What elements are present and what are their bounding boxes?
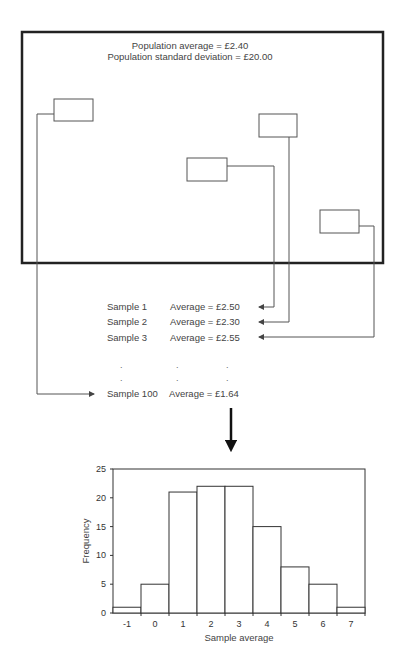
sample-box-100: [54, 99, 93, 121]
y-tick-label: 25: [96, 464, 106, 474]
x-tick-label: -1: [123, 619, 131, 629]
histogram: -1012345670510152025Sample averageFreque…: [80, 464, 365, 643]
x-tick-label: 4: [264, 619, 269, 629]
x-tick-label: 7: [348, 619, 353, 629]
y-tick-label: 10: [96, 550, 106, 560]
sample-box-1: [187, 158, 227, 181]
histogram-bar: [197, 486, 225, 613]
sample-box-2: [259, 114, 297, 137]
histogram-bar: [169, 492, 197, 613]
histogram-bar: [113, 607, 141, 613]
ellipsis-dot: .: [120, 373, 123, 383]
sample-box-3: [320, 210, 359, 233]
sample-2-label: Sample 2: [107, 316, 147, 327]
histogram-bar: [337, 607, 365, 613]
sample-1-label: Sample 1: [107, 301, 147, 312]
population-average: Population average = £2.40: [60, 40, 320, 51]
ellipsis-dot: .: [176, 373, 179, 383]
ellipsis-dot: .: [226, 373, 229, 383]
sample-100-average: Average = £1.64: [169, 388, 239, 399]
histogram-bar: [281, 567, 309, 613]
ellipsis-dot: .: [120, 360, 123, 370]
ellipsis-dot: .: [226, 360, 229, 370]
sample-2-average: Average = £2.30: [170, 316, 240, 327]
histogram-bar: [309, 584, 337, 613]
x-tick-label: 0: [152, 619, 157, 629]
x-axis-title: Sample average: [204, 632, 273, 643]
x-tick-label: 1: [180, 619, 185, 629]
sample-3-average: Average = £2.55: [170, 332, 240, 343]
x-tick-label: 2: [208, 619, 213, 629]
x-tick-label: 3: [236, 619, 241, 629]
y-tick-label: 15: [96, 522, 106, 532]
y-axis-title: Frequency: [80, 518, 91, 563]
histogram-bar: [141, 584, 169, 613]
histogram-bar: [225, 486, 253, 613]
connector-sample-3: [259, 226, 374, 337]
connector-sample-100: [37, 114, 94, 394]
connector-sample-1: [227, 166, 274, 307]
x-tick-label: 5: [292, 619, 297, 629]
y-tick-label: 20: [96, 493, 106, 503]
population-sd: Population standard deviation = £20.00: [60, 51, 320, 62]
y-tick-label: 5: [101, 579, 106, 589]
y-tick-label: 0: [101, 608, 106, 618]
sample-100-label: Sample 100: [107, 388, 158, 399]
ellipsis-dot: .: [176, 360, 179, 370]
sample-1-average: Average = £2.50: [170, 301, 240, 312]
sample-3-label: Sample 3: [107, 332, 147, 343]
histogram-bar: [253, 527, 281, 613]
x-tick-label: 6: [320, 619, 325, 629]
